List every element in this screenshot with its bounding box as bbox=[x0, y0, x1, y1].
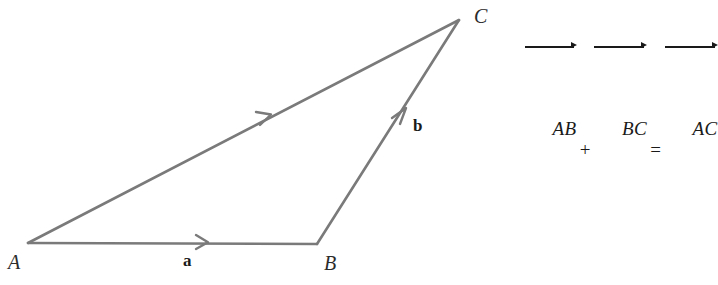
vertex-label-a: A bbox=[8, 252, 20, 272]
overrightarrow-tip-ac bbox=[712, 42, 718, 48]
equation-term-bc-letters: BC bbox=[622, 118, 647, 140]
equation-term-ac: AC bbox=[664, 43, 718, 162]
edge-ab bbox=[28, 243, 317, 244]
edge-bc bbox=[317, 20, 459, 244]
overrightarrow-bar-ac bbox=[665, 46, 715, 48]
equation-term-ab: AB bbox=[524, 43, 577, 162]
vertex-label-c: C bbox=[474, 6, 487, 26]
equation-plus-operator: + bbox=[577, 139, 594, 161]
overrightarrow-tip-bc bbox=[641, 42, 647, 48]
vector-equation: AB + BC = AC bbox=[524, 120, 682, 162]
equation-term-ab-letters: AB bbox=[553, 118, 577, 140]
overrightarrow-bar-bc bbox=[594, 46, 644, 48]
equation-equals-operator: = bbox=[647, 139, 664, 161]
edge-ac bbox=[28, 20, 459, 243]
overrightarrow-bar-ab bbox=[525, 46, 574, 48]
arrowhead-ab bbox=[196, 235, 208, 249]
vertex-label-b: B bbox=[324, 253, 336, 273]
vector-label-b: b bbox=[413, 117, 422, 134]
equation-term-bc: BC bbox=[593, 43, 647, 162]
equation-term-ac-letters: AC bbox=[692, 118, 717, 140]
overrightarrow-tip-ab bbox=[571, 42, 577, 48]
vector-label-a: a bbox=[183, 252, 192, 269]
